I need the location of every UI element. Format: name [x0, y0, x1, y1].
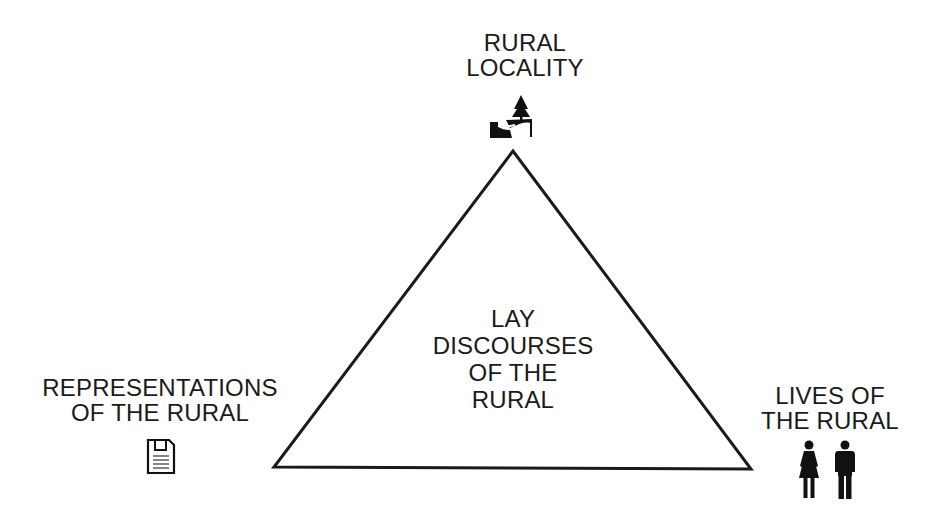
people-woman-man-icon	[794, 438, 862, 502]
top-vertex-label: RURAL LOCALITY	[445, 30, 605, 80]
bottom-left-label-line-2: OF THE RURAL	[20, 400, 300, 425]
center-label-line-4: RURAL	[413, 386, 613, 413]
bottom-right-label-line-1: LIVES OF	[755, 383, 905, 408]
top-label-line-2: LOCALITY	[445, 55, 605, 80]
center-label-line-2: DISCOURSES	[413, 332, 613, 359]
bottom-left-vertex-label: REPRESENTATIONS OF THE RURAL	[20, 375, 300, 425]
bottom-right-label-line-2: THE RURAL	[755, 408, 905, 433]
top-label-line-1: RURAL	[445, 30, 605, 55]
woman-figure-icon	[799, 441, 819, 499]
rural-landscape-tree-icon	[488, 92, 538, 142]
bottom-left-label-line-1: REPRESENTATIONS	[20, 375, 300, 400]
center-label-line-1: LAY	[413, 305, 613, 332]
bottom-right-vertex-label: LIVES OF THE RURAL	[755, 383, 905, 433]
man-figure-icon	[835, 441, 855, 500]
center-label-line-3: OF THE	[413, 359, 613, 386]
document-icon	[145, 438, 177, 476]
center-label: LAY DISCOURSES OF THE RURAL	[413, 305, 613, 413]
